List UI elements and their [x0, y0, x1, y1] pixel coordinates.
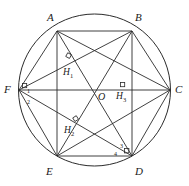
- angle-label-2: 2: [27, 99, 30, 105]
- right-angle-marks: [23, 53, 129, 153]
- angle-label-1: 1: [27, 88, 30, 94]
- side-EF: [19, 90, 57, 156]
- center-label-O: O: [98, 92, 105, 102]
- interior-label-H1-base: H: [63, 67, 70, 77]
- vertex-label-B: B: [135, 12, 142, 23]
- angle-label-3: 3: [120, 143, 123, 149]
- angle-label-4: 4: [114, 151, 117, 157]
- right-angle-h3: [121, 83, 125, 87]
- hexagon-diagonals: [19, 31, 170, 156]
- interior-label-H2-sub: 2: [71, 130, 74, 137]
- chord-BF: [19, 31, 132, 90]
- geometry-figure: A B C D E F O H1 H3 H2 1 2 3 4: [0, 0, 189, 186]
- chord-AC: [57, 31, 170, 90]
- interior-label-H1: H1: [63, 68, 73, 79]
- vertex-label-F: F: [4, 84, 11, 95]
- interior-label-H2: H2: [64, 126, 74, 137]
- interior-label-H3: H3: [116, 92, 126, 103]
- vertex-label-C: C: [175, 84, 182, 95]
- interior-label-H3-base: H: [116, 91, 123, 101]
- vertex-label-A: A: [47, 12, 54, 23]
- interior-label-H2-base: H: [64, 125, 71, 135]
- interior-label-H3-sub: 3: [123, 96, 126, 103]
- interior-label-H1-sub: 1: [70, 72, 73, 79]
- vertex-label-D: D: [135, 166, 143, 177]
- right-angle-h2: [73, 116, 79, 122]
- side-CD: [132, 90, 170, 156]
- vertex-label-E: E: [46, 166, 53, 177]
- chord-CE: [57, 90, 170, 156]
